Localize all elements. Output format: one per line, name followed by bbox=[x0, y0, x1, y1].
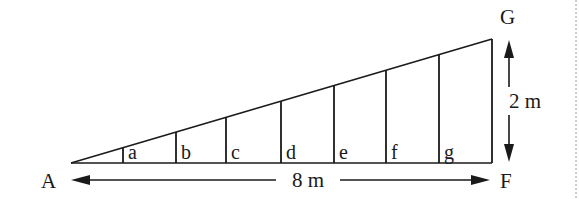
height-dimension-label: 2 m bbox=[509, 89, 541, 113]
ramp-diagram: abcdefg A G F 8 m 2 m bbox=[0, 0, 579, 199]
point-label-F: F bbox=[500, 169, 512, 193]
arrowhead-up-icon bbox=[504, 40, 514, 58]
support-label-f: f bbox=[391, 141, 398, 163]
arrowhead-down-icon bbox=[504, 144, 514, 162]
arrowhead-right-icon bbox=[471, 175, 490, 185]
height-dimension-arrow: 2 m bbox=[504, 40, 541, 162]
support-label-g: g bbox=[444, 141, 454, 164]
support-label-d: d bbox=[286, 141, 296, 163]
support-label-e: e bbox=[339, 141, 348, 163]
point-label-G: G bbox=[500, 5, 515, 29]
base-dimension-arrow: 8 m bbox=[71, 168, 490, 192]
support-label-b: b bbox=[181, 141, 191, 163]
base-dimension-label: 8 m bbox=[292, 168, 324, 192]
support-label-a: a bbox=[128, 141, 137, 163]
support-label-c: c bbox=[231, 141, 240, 163]
point-label-A: A bbox=[41, 169, 57, 193]
supports-group: abcdefg bbox=[123, 55, 454, 164]
arrowhead-left-icon bbox=[71, 175, 90, 185]
